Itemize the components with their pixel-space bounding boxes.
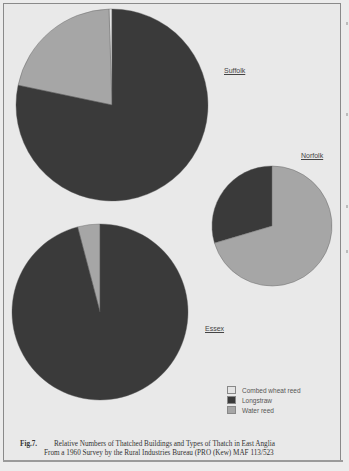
pie-label-norfolk: Norfolk (301, 152, 323, 159)
pie-norfolk (212, 166, 332, 286)
pie-suffolk (16, 9, 208, 201)
scan-mark (346, 250, 348, 253)
legend-label: Longstraw (242, 397, 272, 404)
legend: Combed wheat reed Longstraw Water reed (227, 385, 301, 415)
caption-line-1: Relative Numbers of Thatched Buildings a… (54, 440, 275, 449)
figure-number: Fig.7. (20, 440, 37, 449)
scan-mark (346, 22, 348, 25)
pie-label-suffolk: Suffolk (224, 67, 245, 74)
legend-swatch (227, 406, 236, 414)
scan-mark (346, 205, 348, 208)
legend-label: Combed wheat reed (242, 387, 301, 394)
legend-item-longstraw: Longstraw (227, 395, 301, 405)
caption-line-2: From a 1960 Survey by the Rural Industri… (44, 449, 274, 458)
pie-essex (12, 224, 188, 400)
legend-swatch (227, 386, 236, 394)
pie-label-essex: Essex (205, 325, 224, 332)
legend-swatch (227, 396, 236, 404)
legend-item-water-reed: Water reed (227, 405, 301, 415)
scan-mark (346, 113, 348, 116)
pie-slice-longstraw (12, 224, 188, 400)
legend-label: Water reed (242, 407, 274, 414)
legend-item-combed-wheat-reed: Combed wheat reed (227, 385, 301, 395)
